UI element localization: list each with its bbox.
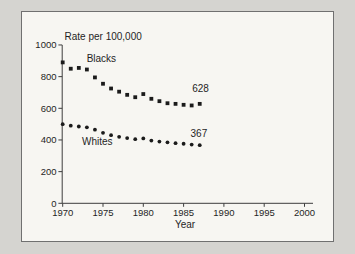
data-point-blacks (182, 103, 186, 107)
x-tick-label: 2000 (294, 207, 315, 218)
data-point-blacks (141, 92, 145, 96)
data-point-blacks (101, 82, 105, 86)
x-tick-label: 1990 (213, 207, 234, 218)
data-point-whites (69, 124, 73, 128)
data-point-whites (182, 142, 186, 146)
data-point-blacks (77, 66, 81, 70)
y-axis-title: Rate per 100,000 (65, 31, 143, 42)
figure-canvas: 0200400600800100019701975198019851990199… (0, 0, 355, 254)
data-point-whites (198, 143, 202, 147)
data-point-whites (117, 135, 121, 139)
data-point-whites (101, 131, 105, 135)
annotation-whites: Whites (82, 136, 113, 147)
rate-scatter-chart: 0200400600800100019701975198019851990199… (0, 0, 355, 254)
data-point-blacks (166, 101, 170, 105)
x-tick-label: 1970 (52, 207, 73, 218)
y-tick-label: 1000 (35, 39, 56, 50)
data-point-blacks (133, 95, 137, 99)
data-point-blacks (117, 90, 121, 94)
data-point-blacks (149, 97, 153, 101)
data-point-whites (149, 139, 153, 143)
data-point-whites (125, 136, 129, 140)
data-point-blacks (174, 102, 178, 106)
x-tick-label: 1975 (92, 207, 113, 218)
annotation-367: 367 (191, 128, 208, 139)
annotation-628: 628 (192, 83, 209, 94)
data-point-blacks (198, 102, 202, 106)
data-point-blacks (125, 93, 129, 97)
data-point-blacks (109, 87, 113, 91)
y-tick-label: 800 (41, 71, 57, 82)
data-point-blacks (158, 99, 162, 103)
y-tick-label: 400 (41, 134, 57, 145)
x-tick-label: 1980 (133, 207, 154, 218)
annotation-blacks: Blacks (87, 53, 116, 64)
data-point-whites (166, 140, 170, 144)
data-point-whites (158, 140, 162, 144)
x-tick-label: 1995 (254, 207, 275, 218)
data-point-blacks (61, 60, 65, 64)
y-tick-label: 200 (41, 166, 57, 177)
x-tick-label: 1985 (173, 207, 194, 218)
data-point-whites (93, 128, 97, 132)
data-point-blacks (85, 68, 89, 72)
data-point-blacks (190, 104, 194, 108)
data-point-whites (190, 143, 194, 147)
data-point-whites (174, 141, 178, 145)
data-point-whites (77, 125, 81, 129)
data-point-whites (141, 136, 145, 140)
data-point-whites (85, 125, 89, 129)
data-point-whites (133, 137, 137, 141)
data-point-blacks (69, 67, 73, 71)
data-point-whites (61, 122, 65, 126)
data-point-blacks (93, 76, 97, 80)
x-axis-title: Year (175, 219, 196, 230)
y-tick-label: 600 (41, 103, 57, 114)
